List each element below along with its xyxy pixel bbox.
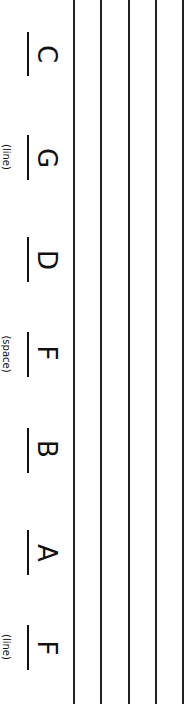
staff-line-4: [155, 0, 157, 704]
note-letter: B: [32, 434, 62, 464]
note-letter: A: [32, 538, 62, 568]
answer-blank: [27, 32, 29, 76]
staff-line-2: [100, 0, 102, 704]
note-hint: (line): [0, 627, 12, 667]
answer-blank: [27, 332, 29, 377]
answer-blank: [27, 625, 29, 670]
staff-line-5: [182, 0, 184, 704]
note-letter: D: [32, 245, 62, 275]
note-hint: (line): [0, 137, 12, 177]
staff-line-1: [73, 0, 75, 704]
note-letter: C: [32, 39, 62, 69]
answer-blank: [27, 530, 29, 575]
note-letter: F: [32, 633, 62, 663]
note-hint: (space): [0, 334, 12, 374]
note-letter: G: [32, 143, 62, 173]
note-letter: F: [32, 338, 62, 368]
staff-line-3: [128, 0, 130, 704]
answer-blank: [27, 135, 29, 180]
answer-blank: [27, 237, 29, 282]
answer-blank: [27, 428, 29, 473]
